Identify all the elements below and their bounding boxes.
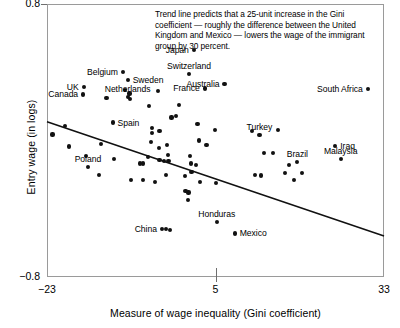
trend-line-svg [0,0,400,328]
scatter-chart-figure: Trend line predicts that a 25-unit incre… [0,0,400,328]
trend-line [47,122,384,236]
